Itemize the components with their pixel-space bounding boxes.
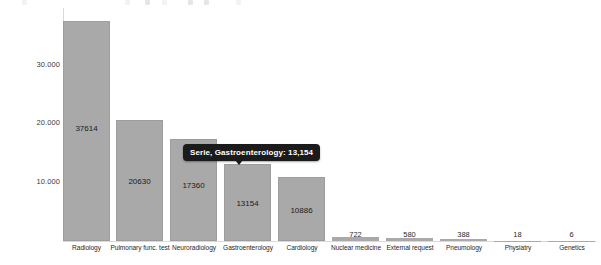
y-axis-tick-10000: 10.000 (8, 177, 60, 187)
x-axis-label-genetics: Genetics (545, 244, 599, 251)
bar-value-label: 20630 (116, 177, 163, 186)
x-axis-label-nuclear-medicine: Nuclear medicine (325, 244, 387, 251)
bar-chart-plot-area: 30.000 20.000 10.000 37614 Radiology 206… (0, 0, 601, 265)
chart-tooltip: Serie, Gastroenterology: 13,154 (183, 144, 320, 161)
y-axis-tick-label: 20.000 (16, 118, 60, 127)
bar-value-label: 6 (548, 230, 595, 239)
y-axis-tick-label: 10.000 (16, 177, 60, 186)
bar-physiatry[interactable] (494, 241, 541, 242)
x-axis-label-cardiology: Cardiology (271, 244, 333, 251)
bar-value-label: 722 (332, 230, 379, 239)
bar-value-label: 13154 (224, 199, 271, 208)
bar-value-label: 10886 (278, 206, 325, 215)
bar-value-label: 37614 (63, 124, 110, 133)
chart-tooltip-arrow-icon (235, 160, 243, 165)
chart-tooltip-text: Serie, Gastroenterology: 13,154 (190, 148, 313, 157)
bar-value-label: 580 (386, 230, 433, 239)
x-axis-label-external-request: External request (379, 244, 441, 251)
bar-value-label: 388 (440, 230, 487, 239)
y-axis-tick-20000: 20.000 (8, 118, 60, 128)
bar-value-label: 17360 (170, 181, 217, 190)
y-axis-tick-30000: 30.000 (8, 60, 60, 70)
x-axis-label-pneumology: Pneumology (435, 244, 493, 251)
y-axis-tick-label: 30.000 (16, 60, 60, 69)
x-axis-label-physiatry: Physiatry (491, 244, 545, 251)
chart-screenshot: 30.000 20.000 10.000 37614 Radiology 206… (0, 0, 601, 265)
bar-pneumology[interactable] (440, 239, 487, 241)
bar-genetics[interactable] (548, 241, 595, 242)
bar-value-label: 18 (494, 230, 541, 239)
